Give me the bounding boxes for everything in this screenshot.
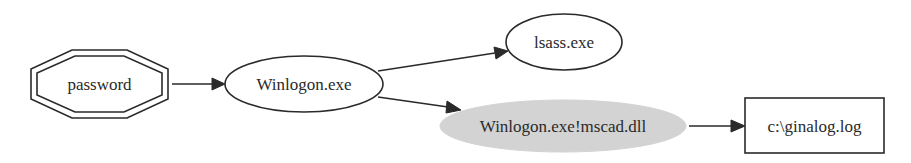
- node-password[interactable]: password: [31, 50, 168, 118]
- node-winlogon[interactable]: Winlogon.exe: [225, 56, 383, 112]
- node-label-ginalog: c:\ginalog.log: [768, 117, 862, 136]
- node-mscad[interactable]: Winlogon.exe!mscad.dll: [440, 100, 686, 152]
- edge-mscad-ginalog: [689, 120, 745, 132]
- arrowhead-icon: [446, 101, 461, 113]
- arrowhead-icon: [731, 120, 745, 132]
- node-lsass[interactable]: lsass.exe: [506, 14, 622, 70]
- edge-password-winlogon: [172, 78, 225, 90]
- node-label-winlogon: Winlogon.exe: [256, 75, 351, 94]
- node-ginalog[interactable]: c:\ginalog.log: [745, 98, 884, 153]
- edge-winlogon-mscad: [378, 97, 461, 113]
- node-label-mscad: Winlogon.exe!mscad.dll: [480, 117, 647, 136]
- arrowhead-icon: [212, 78, 225, 90]
- arrowhead-icon: [494, 47, 508, 59]
- node-label-lsass: lsass.exe: [534, 33, 594, 52]
- graph-canvas: password Winlogon.exe lsass.exe Winlogon…: [0, 0, 911, 163]
- node-label-password: password: [67, 75, 132, 94]
- edge-winlogon-lsass: [378, 47, 508, 71]
